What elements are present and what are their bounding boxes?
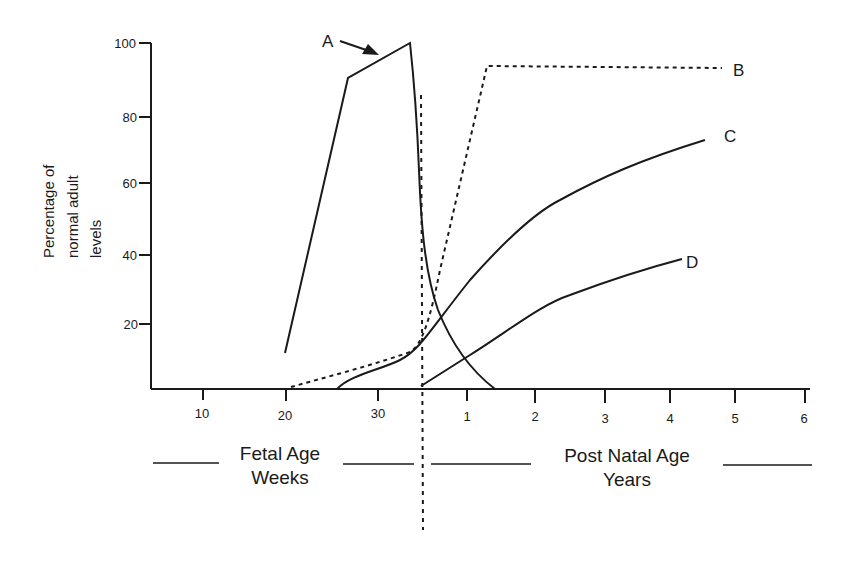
svg-text:10: 10 <box>195 406 209 421</box>
svg-text:5: 5 <box>731 411 738 426</box>
svg-text:20: 20 <box>278 408 292 423</box>
y-ticks: 100 80 60 40 20 <box>114 36 151 332</box>
label-b: B <box>733 61 744 80</box>
svg-text:normal adult: normal adult <box>64 175 81 258</box>
svg-text:6: 6 <box>800 411 807 426</box>
y-tick-80: 80 <box>123 110 137 125</box>
label-c: C <box>724 127 736 146</box>
x-tick-labels: 10 20 30 1 2 3 4 5 6 <box>195 406 808 426</box>
series-d-line <box>421 259 682 386</box>
post-natal-age-label: Post Natal Age Years <box>431 445 812 490</box>
label-a: A <box>322 32 334 51</box>
svg-text:Fetal Age: Fetal Age <box>240 443 320 464</box>
svg-text:1: 1 <box>463 409 470 424</box>
y-axis-label: Percentage of normal adult levels <box>40 164 104 258</box>
svg-text:3: 3 <box>601 411 608 426</box>
chart: 100 80 60 40 20 Percentage of normal adu… <box>0 0 849 564</box>
series-a-line <box>285 43 495 389</box>
svg-text:Percentage of: Percentage of <box>40 164 57 258</box>
y-tick-100: 100 <box>114 36 136 51</box>
svg-text:2: 2 <box>531 409 538 424</box>
svg-text:4: 4 <box>666 411 673 426</box>
y-tick-60: 60 <box>123 176 137 191</box>
arrow-icon <box>340 41 379 55</box>
svg-text:30: 30 <box>371 406 385 421</box>
y-tick-40: 40 <box>123 248 137 263</box>
series-b-line <box>291 66 722 387</box>
birth-divider-line <box>421 95 423 530</box>
svg-text:Years: Years <box>603 469 651 490</box>
svg-text:levels: levels <box>87 220 104 258</box>
svg-text:Weeks: Weeks <box>251 467 309 488</box>
x-ticks <box>203 389 805 403</box>
fetal-age-label: Fetal Age Weeks <box>153 443 414 488</box>
y-tick-20: 20 <box>124 317 138 332</box>
label-d: D <box>686 253 698 272</box>
svg-text:Post Natal Age: Post Natal Age <box>564 445 690 466</box>
series-c-line <box>337 140 705 389</box>
